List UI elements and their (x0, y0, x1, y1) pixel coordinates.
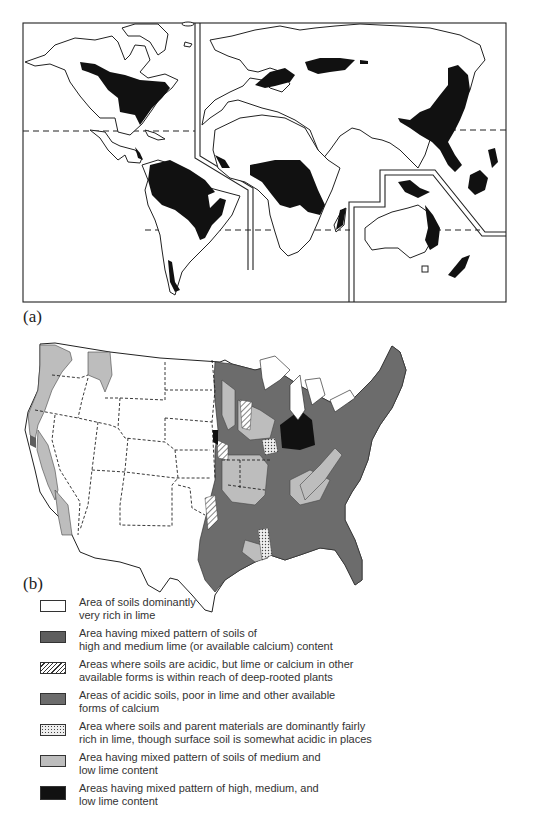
legend-text-line2: rich in lime, though surface soil is som… (79, 733, 372, 746)
world-map (0, 0, 533, 310)
swatch-black (40, 786, 66, 800)
legend-text-line1: Area having mixed pattern of soils of (79, 627, 333, 640)
legend-text-line1: Area where soils and parent materials ar… (79, 720, 372, 733)
legend-text-line1: Area of soils dominantly (79, 596, 196, 609)
legend-text-line1: Areas where soils are acidic, but lime o… (79, 658, 354, 671)
swatch-dark-gray (40, 631, 66, 643)
legend-item-high-medium-lime: Area having mixed pattern of soils of hi… (40, 627, 510, 658)
legend-item-fairly-rich-lime: Area where soils and parent materials ar… (40, 720, 510, 751)
legend-text-line1: Areas having mixed pattern of high, medi… (79, 782, 319, 795)
legend-text-line1: Area having mixed pattern of soils of me… (79, 751, 321, 764)
legend-item-very-rich-lime: Area of soils dominantly very rich in li… (40, 596, 510, 627)
swatch-dotted (40, 724, 66, 736)
legend-item-medium-low-lime: Area having mixed pattern of soils of me… (40, 751, 510, 782)
legend-text-line2: high and medium lime (or available calci… (79, 640, 333, 653)
legend-text-line1: Areas of acidic soils, poor in lime and … (79, 689, 335, 702)
legend-text-line2: very rich in lime (79, 609, 196, 622)
legend-text-line2: forms of calcium (79, 702, 335, 715)
legend-text-line2: low lime content (79, 764, 321, 777)
legend-item-acidic-deep-rooted: Areas where soils are acidic, but lime o… (40, 658, 510, 689)
legend-text-line2: low lime content (79, 795, 319, 808)
legend-item-acidic-poor-lime: Areas of acidic soils, poor in lime and … (40, 689, 510, 720)
legend-text-line2: available forms is within reach of deep-… (79, 671, 354, 684)
swatch-hatched (40, 662, 66, 674)
legend: Area of soils dominantly very rich in li… (40, 596, 510, 813)
legend-item-high-medium-low-lime: Areas having mixed pattern of high, medi… (40, 782, 510, 813)
panel-a-label: (a) (23, 307, 42, 327)
swatch-light-gray (40, 755, 66, 767)
panel-b-label: (b) (23, 574, 43, 594)
swatch-medium-dark-gray (40, 693, 66, 705)
swatch-white (40, 600, 66, 612)
usa-soil-map (0, 330, 533, 620)
